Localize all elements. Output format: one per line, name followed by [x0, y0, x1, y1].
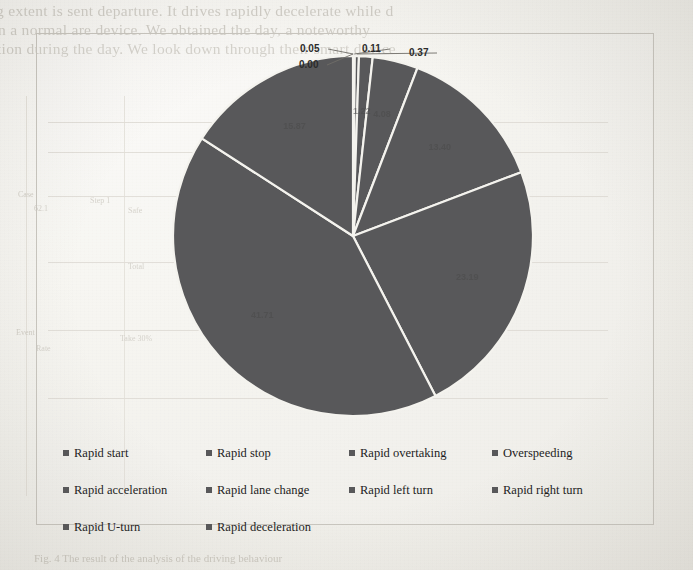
- legend-swatch-icon: [63, 524, 69, 530]
- legend-swatch-icon: [349, 450, 355, 456]
- legend-swatch-icon: [492, 487, 498, 493]
- pie-data-label: 0.05: [300, 43, 320, 54]
- legend-item-label: Rapid right turn: [503, 483, 583, 498]
- legend-item[interactable]: Rapid start: [63, 446, 206, 461]
- bleed-through-footer: Fig. 4 The result of the analysis of the…: [34, 552, 282, 564]
- legend-item[interactable]: Rapid overtaking: [349, 446, 492, 461]
- legend-item[interactable]: Overspeeding: [492, 446, 635, 461]
- legend-swatch-icon: [63, 450, 69, 456]
- pie-chart: 0.000.050.110.371.224.0813.4023.1941.711…: [37, 34, 655, 429]
- pie-data-label: 13.40: [428, 142, 451, 152]
- bleed-through-cell: Event: [16, 328, 35, 337]
- pie-data-label: 0.11: [362, 43, 381, 54]
- legend-item-label: Rapid start: [74, 446, 129, 461]
- legend-item[interactable]: Rapid stop: [206, 446, 349, 461]
- legend-swatch-icon: [206, 450, 212, 456]
- legend-swatch-icon: [63, 487, 69, 493]
- pie-data-label: 1.22: [353, 106, 371, 116]
- legend-item[interactable]: Rapid acceleration: [63, 483, 206, 498]
- pie-data-label: 41.71: [251, 310, 274, 320]
- legend-swatch-icon: [206, 487, 212, 493]
- legend-item[interactable]: Rapid U-turn: [63, 520, 206, 535]
- bleed-through-vrule: [26, 96, 27, 496]
- pie-data-label: 4.08: [373, 109, 391, 119]
- bleed-through-line-1: g extent is sent departure. It drives ra…: [0, 2, 394, 20]
- legend-swatch-icon: [206, 524, 212, 530]
- pie-data-label: 23.19: [456, 272, 479, 282]
- pie-data-label: 0.37: [409, 47, 429, 58]
- pie-data-label: 0.00: [299, 59, 319, 70]
- legend-swatch-icon: [349, 487, 355, 493]
- legend-item-label: Rapid deceleration: [217, 520, 311, 535]
- legend-item-label: Rapid overtaking: [360, 446, 446, 461]
- legend-item[interactable]: Rapid lane change: [206, 483, 349, 498]
- chart-frame: 0.000.050.110.371.224.0813.4023.1941.711…: [36, 33, 654, 525]
- scanned-page: g extent is sent departure. It drives ra…: [0, 0, 693, 570]
- legend-item-label: Rapid left turn: [360, 483, 433, 498]
- legend-item-label: Overspeeding: [503, 446, 572, 461]
- legend-item-label: Rapid stop: [217, 446, 271, 461]
- bleed-through-cell: Case: [18, 190, 34, 199]
- legend-swatch-icon: [492, 450, 498, 456]
- legend-item-label: Rapid U-turn: [74, 520, 140, 535]
- pie-data-label: 15.87: [283, 121, 306, 131]
- legend-item[interactable]: Rapid left turn: [349, 483, 492, 498]
- chart-legend: Rapid startRapid stopRapid overtakingOve…: [63, 446, 635, 535]
- pie-leader-line: [328, 49, 353, 54]
- pie-chart-svg: 0.000.050.110.371.224.0813.4023.1941.711…: [37, 34, 655, 429]
- legend-item-label: Rapid lane change: [217, 483, 309, 498]
- legend-item[interactable]: Rapid right turn: [492, 483, 635, 498]
- legend-item[interactable]: Rapid deceleration: [206, 520, 349, 535]
- legend-item-label: Rapid acceleration: [74, 483, 167, 498]
